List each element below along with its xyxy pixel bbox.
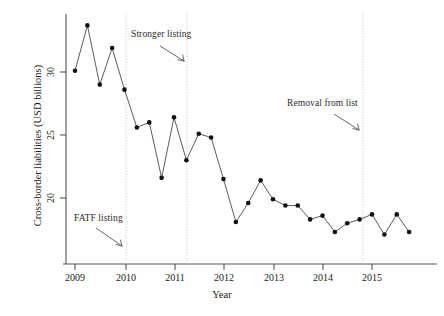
annotation-stronger-listing: Stronger listing <box>131 29 191 39</box>
data-point <box>271 197 276 202</box>
data-point <box>209 135 214 140</box>
y-axis-label: Cross-border liabilities (USD billions) <box>32 46 43 246</box>
y-tick-label-20: 20 <box>45 193 56 203</box>
x-tick-label-2011: 2011 <box>165 272 185 283</box>
data-point <box>308 217 313 222</box>
x-axis-ticks <box>75 264 372 270</box>
data-point <box>97 82 102 87</box>
data-point <box>110 46 115 51</box>
y-tick-label-30: 30 <box>45 67 56 77</box>
data-point <box>159 176 164 181</box>
annotation-arrows <box>96 46 359 246</box>
annotation-fatf-listing: FATF listing <box>74 213 123 223</box>
data-point <box>135 125 140 130</box>
data-point <box>283 203 288 208</box>
data-point <box>234 220 239 225</box>
data-point <box>184 158 189 163</box>
data-point <box>221 177 226 182</box>
chart-plot-area <box>0 0 444 316</box>
chart-container: 30 25 20 2009 2010 2011 2012 2013 2014 2… <box>0 0 444 316</box>
data-point <box>258 178 263 183</box>
arrow-removal-from-list <box>334 114 359 130</box>
x-tick-label-2014: 2014 <box>313 272 333 283</box>
data-point <box>370 212 375 217</box>
annotation-removal-from-list: Removal from list <box>287 98 358 108</box>
data-point <box>122 87 127 92</box>
y-axis-ticks <box>60 72 66 198</box>
data-point <box>320 213 325 218</box>
axis-lines <box>63 14 437 264</box>
data-point <box>172 115 177 120</box>
event-lines <box>126 14 363 264</box>
data-point <box>147 120 152 125</box>
arrow-stronger-listing <box>160 46 184 61</box>
data-point <box>196 131 201 136</box>
data-point <box>295 203 300 208</box>
arrow-fatf-listing <box>96 228 122 246</box>
data-markers <box>73 23 412 237</box>
x-tick-label-2010: 2010 <box>116 272 136 283</box>
data-point <box>345 221 350 226</box>
x-tick-label-2015: 2015 <box>362 272 382 283</box>
x-tick-label-2012: 2012 <box>214 272 234 283</box>
data-point <box>382 232 387 237</box>
y-tick-label-25: 25 <box>45 130 56 140</box>
x-tick-label-2013: 2013 <box>264 272 284 283</box>
data-point <box>333 230 338 235</box>
x-axis-label: Year <box>0 289 444 300</box>
data-point <box>394 212 399 217</box>
data-point <box>357 217 362 222</box>
data-point <box>407 230 412 235</box>
data-point <box>246 201 251 206</box>
data-point <box>73 68 78 73</box>
data-point <box>85 23 90 28</box>
x-tick-label-2009: 2009 <box>65 272 85 283</box>
